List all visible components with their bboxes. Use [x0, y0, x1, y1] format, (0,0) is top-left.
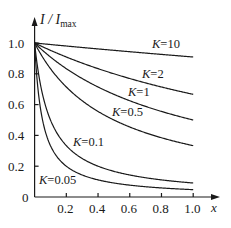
- curve-label: K=0.5: [111, 105, 143, 119]
- y-tick-label: 1.0: [8, 36, 24, 51]
- y-axis-label: I / Imax: [39, 12, 77, 29]
- x-axis: [35, 194, 220, 200]
- y-tick-label: 0: [22, 190, 29, 205]
- x-tick-label: 0.4: [89, 201, 106, 216]
- curve-label: K=0.05: [38, 173, 76, 187]
- curve-labels: K=10K=2K=1K=0.5K=0.1K=0.05: [38, 37, 180, 187]
- curve-label: K=0.1: [72, 135, 104, 149]
- x-tick-label: 1.0: [184, 201, 200, 216]
- y-tick-label: 0.4: [8, 128, 25, 143]
- x-tick-label: 0.8: [152, 201, 168, 216]
- curve-label: K=10: [151, 37, 180, 51]
- y-tick-label: 0.8: [8, 66, 24, 81]
- y-tick-label: 0.6: [8, 97, 25, 112]
- curve-label: K=2: [141, 67, 164, 81]
- x-axis-label: x: [210, 200, 217, 215]
- x-tick-label: 0.2: [57, 201, 73, 216]
- y-axis-arrow-icon: [32, 17, 38, 26]
- y-tick-label: 0.2: [8, 159, 24, 174]
- chart: 00.20.40.60.81.0 0.20.40.60.81.0 I / Ima…: [0, 0, 231, 228]
- curve-label: K=1: [127, 85, 150, 99]
- x-tick-label: 0.6: [121, 201, 138, 216]
